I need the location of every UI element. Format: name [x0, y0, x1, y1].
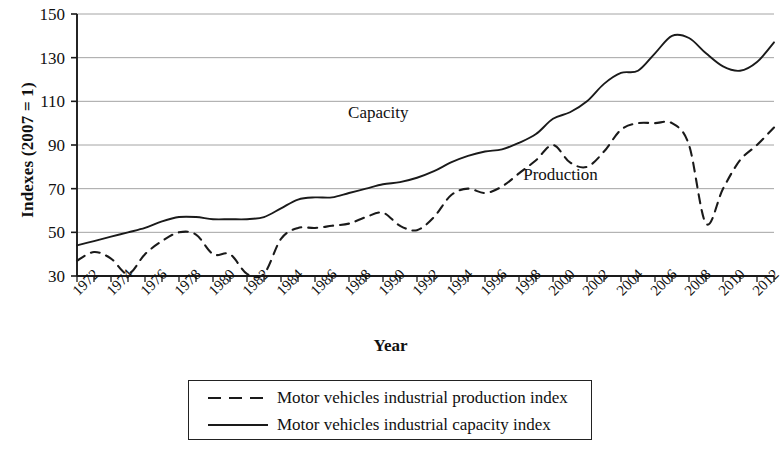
legend-label-production: Motor vehicles industrial production ind…: [277, 388, 568, 408]
y-tick-label: 50: [19, 224, 65, 241]
y-tick-label: 130: [19, 50, 65, 67]
legend-swatch-dashed: [207, 391, 269, 405]
legend-label-capacity: Motor vehicles industrial capacity index: [277, 415, 551, 435]
y-tick-label: 30: [19, 268, 65, 285]
y-tick-label: 110: [19, 93, 65, 110]
y-tick-label: 150: [19, 6, 65, 23]
annotation-capacity: Capacity: [348, 103, 408, 123]
y-tick-label: 70: [19, 181, 65, 198]
y-tick-label: 90: [19, 137, 65, 154]
annotation-production: Production: [523, 165, 598, 185]
chart-legend: Motor vehicles industrial production ind…: [188, 380, 592, 440]
x-axis-title: Year: [0, 336, 781, 356]
chart-figure: Indexes (2007 = 1) Year 3050709011013015…: [0, 0, 781, 449]
legend-swatch-solid: [207, 418, 269, 432]
plot-area: [0, 0, 781, 300]
legend-item-capacity: Motor vehicles industrial capacity index: [189, 411, 591, 438]
legend-item-production: Motor vehicles industrial production ind…: [189, 384, 591, 411]
